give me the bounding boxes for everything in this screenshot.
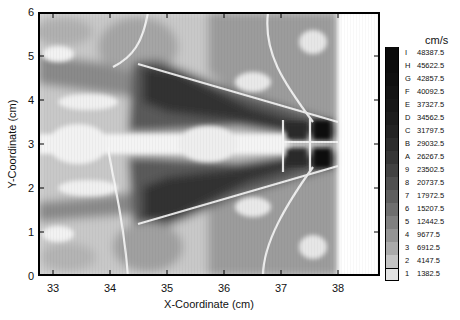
legend-swatch — [385, 203, 399, 216]
legend-entry: 820737.5 — [385, 177, 460, 190]
contour-plot-area — [38, 12, 380, 276]
legend-swatch — [385, 242, 399, 255]
legend-swatch — [385, 112, 399, 125]
x-tick-label: 33 — [47, 282, 59, 294]
y-tick-label: 4 — [24, 94, 34, 106]
legend-entry: 49677.5 — [385, 229, 460, 242]
legend-entry: D34562.5 — [385, 112, 460, 125]
y-tick-label: 0 — [24, 270, 34, 282]
legend-entry: A26267.5 — [385, 151, 460, 164]
legend-swatch — [385, 125, 399, 138]
legend-swatch — [385, 86, 399, 99]
legend-entry: F40092.5 — [385, 86, 460, 99]
y-tick-label: 1 — [24, 226, 34, 238]
legend-entry: E37327.5 — [385, 99, 460, 112]
legend-swatch — [385, 138, 399, 151]
legend-entry: 24147.5 — [385, 255, 460, 268]
legend-entry: 717972.5 — [385, 190, 460, 203]
x-tick-label: 37 — [275, 282, 287, 294]
legend-swatch — [385, 177, 399, 190]
legend-entry: H45622.5 — [385, 60, 460, 73]
x-axis-label: X-Coordinate (cm) — [164, 298, 254, 310]
legend-entry: B29032.5 — [385, 138, 460, 151]
legend-entry: 615207.5 — [385, 203, 460, 216]
legend-swatch — [385, 229, 399, 242]
y-tick-label: 6 — [24, 6, 34, 18]
legend-swatch — [385, 47, 399, 60]
legend-swatch — [385, 255, 399, 268]
legend-entry: 11382.5 — [385, 268, 460, 281]
legend-swatch — [385, 268, 399, 281]
legend-entry: I48387.5 — [385, 47, 460, 60]
legend-entry: 512442.5 — [385, 216, 460, 229]
legend-swatch — [385, 190, 399, 203]
x-tick-label: 36 — [218, 282, 230, 294]
x-tick-label: 34 — [104, 282, 116, 294]
legend-swatch — [385, 151, 399, 164]
legend-entry: G42857.5 — [385, 73, 460, 86]
x-tick-label: 38 — [332, 282, 344, 294]
legend-swatch — [385, 164, 399, 177]
legend-swatch — [385, 216, 399, 229]
legend-entry: 923502.5 — [385, 164, 460, 177]
legend-swatch — [385, 73, 399, 86]
legend-swatch — [385, 60, 399, 73]
legend-title: cm/s — [425, 34, 448, 46]
y-tick-label: 3 — [24, 138, 34, 150]
legend-entry: 36912.5 — [385, 242, 460, 255]
y-tick-label: 2 — [24, 182, 34, 194]
legend-entry: C31797.5 — [385, 125, 460, 138]
y-axis-label: Y-Coordinate (cm) — [6, 100, 18, 189]
y-tick-label: 5 — [24, 50, 34, 62]
contour-field — [38, 12, 380, 276]
legend-swatch — [385, 99, 399, 112]
x-tick-label: 35 — [161, 282, 173, 294]
